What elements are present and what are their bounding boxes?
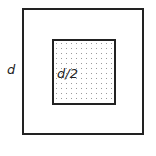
inner-side-label: d/2 xyxy=(57,66,78,81)
outer-side-label: d xyxy=(7,62,15,77)
